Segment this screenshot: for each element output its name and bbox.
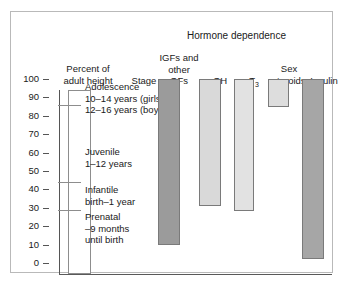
y-axis-tick	[43, 226, 49, 227]
y-axis-tick-label: 60	[13, 147, 39, 158]
y-axis-tick	[43, 171, 49, 172]
y-axis-tick	[43, 134, 49, 135]
y-axis-tick	[43, 263, 49, 264]
hormone-bar-gh	[199, 79, 221, 206]
stage-divider	[58, 210, 81, 211]
y-axis-tick-label: 80	[13, 110, 39, 121]
y-axis-tick	[43, 208, 49, 209]
y-axis-tick-label: 40	[13, 183, 39, 194]
y-axis-tick-label: 30	[13, 202, 39, 213]
y-axis-tick-label: 50	[13, 165, 39, 176]
figure-frame: Hormone dependence Percent of adult heig…	[10, 11, 333, 273]
x-axis-baseline	[59, 274, 332, 276]
y-axis-tick-label: 90	[13, 91, 39, 102]
y-axis-tick-label: 100	[13, 73, 39, 84]
y-axis-tick	[43, 153, 49, 154]
y-axis-tick	[43, 79, 49, 80]
hormone-bar-igfs	[158, 79, 180, 245]
y-axis-tick-label: 70	[13, 128, 39, 139]
stage-description-juvenile: Juvenile 1–12 years	[85, 146, 132, 169]
column-label-t3-subscript: 3	[255, 81, 259, 88]
y-axis-tick-label: 20	[13, 220, 39, 231]
y-axis-tick	[43, 189, 49, 190]
stage-description-prenatal: Prenatal –9 months until birth	[85, 211, 129, 246]
stage-divider	[58, 182, 81, 183]
stage-divider	[58, 105, 81, 106]
y-axis-tick	[43, 245, 49, 246]
y-axis-tick-label: 0	[13, 257, 39, 268]
stage-description-infantile: Infantile birth–1 year	[85, 184, 135, 207]
y-axis-tick	[43, 97, 49, 98]
hormone-bar-t3	[234, 79, 254, 211]
stage-description-adolescence: Adolescence 10–14 years (girls) 12–16 ye…	[85, 81, 166, 116]
growth-hormone-dependence-figure: Hormone dependence Percent of adult heig…	[0, 0, 344, 285]
y-axis-tick	[43, 116, 49, 117]
hormone-dependence-title: Hormone dependence	[187, 30, 286, 42]
hormone-bar-sex-steroids	[268, 79, 289, 107]
hormone-bar-insulin	[302, 79, 324, 259]
y-axis-tick-label: 10	[13, 239, 39, 250]
